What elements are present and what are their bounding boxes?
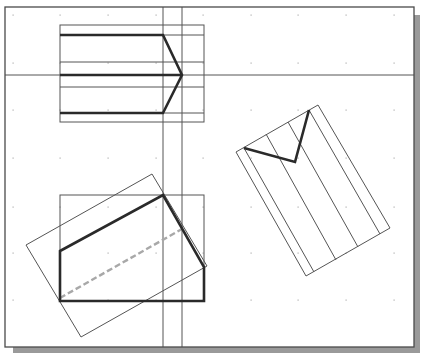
grid-dot	[251, 158, 252, 159]
drawing-frame	[5, 7, 414, 347]
grid-dot	[108, 63, 109, 64]
grid-dot	[203, 158, 204, 159]
grid-dot	[346, 110, 347, 111]
grid-dot	[394, 15, 395, 16]
grid-dot	[156, 207, 157, 208]
grid-dot	[298, 110, 299, 111]
grid-dot	[60, 158, 61, 159]
grid-dot	[156, 63, 157, 64]
grid-dot	[156, 15, 157, 16]
grid-dot	[394, 158, 395, 159]
grid-dot	[13, 63, 14, 64]
grid-dot	[203, 15, 204, 16]
grid-dot	[298, 63, 299, 64]
grid-dot	[108, 15, 109, 16]
grid-dot	[346, 207, 347, 208]
grid-dot	[298, 253, 299, 254]
grid-dot	[251, 300, 252, 301]
grid-dot	[13, 207, 14, 208]
grid-dot	[298, 15, 299, 16]
grid-dot	[394, 300, 395, 301]
grid-dot	[298, 158, 299, 159]
drawing-canvas[interactable]	[0, 0, 422, 353]
grid-dot	[13, 253, 14, 254]
grid-dot	[394, 207, 395, 208]
grid-dot	[156, 110, 157, 111]
grid-dot	[346, 15, 347, 16]
grid-dot	[251, 15, 252, 16]
grid-dot	[394, 253, 395, 254]
grid-dot	[298, 207, 299, 208]
shadow-bottom	[13, 347, 420, 353]
grid-dot	[251, 110, 252, 111]
grid-dot	[251, 63, 252, 64]
grid-dot	[156, 158, 157, 159]
grid-dot	[156, 253, 157, 254]
grid-dot	[13, 300, 14, 301]
grid-dot	[346, 158, 347, 159]
grid-dot	[108, 253, 109, 254]
grid-dot	[346, 300, 347, 301]
grid-dot	[13, 158, 14, 159]
grid-dot	[13, 110, 14, 111]
grid-dot	[108, 110, 109, 111]
grid-dot	[394, 63, 395, 64]
grid-dot	[13, 15, 14, 16]
grid-dot	[346, 63, 347, 64]
drawing-svg[interactable]	[0, 0, 422, 353]
grid-dot	[394, 110, 395, 111]
grid-dot	[298, 300, 299, 301]
grid-dot	[251, 253, 252, 254]
grid-dot	[108, 158, 109, 159]
grid-dot	[251, 207, 252, 208]
grid-dot	[60, 15, 61, 16]
shadow-right	[414, 15, 420, 353]
grid-dot	[108, 207, 109, 208]
